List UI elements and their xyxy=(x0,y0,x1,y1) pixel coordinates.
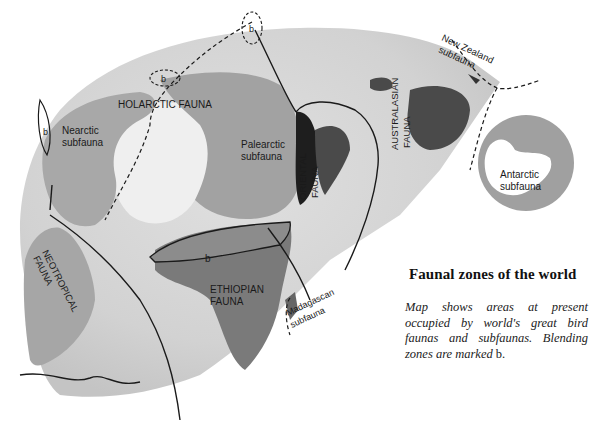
label-holarctic: HOLARCTIC FAUNA xyxy=(118,99,212,110)
australia-land xyxy=(407,86,470,150)
label-antarctic-2: subfauna xyxy=(500,181,542,192)
label-ethiopian-1: ETHIOPIAN xyxy=(210,284,264,295)
faunal-zones-map: HOLARCTIC FAUNA Nearctic subfauna Palear… xyxy=(0,0,612,428)
blend-marker-bering-north: b xyxy=(249,24,254,34)
label-australasian-2: FAUNA xyxy=(401,116,412,148)
label-oriental-2: FAUNA xyxy=(309,166,320,198)
blend-marker-bering: b xyxy=(161,74,166,84)
label-palearctic-2: subfauna xyxy=(241,151,283,162)
label-australasian-1: AUSTRALASIAN xyxy=(389,78,400,150)
map-caption: Map shows areas at present occupied by w… xyxy=(405,300,588,362)
blend-marker-nearctic: b xyxy=(43,127,48,137)
label-antarctic-1: Antarctic xyxy=(500,169,539,180)
label-ethiopian-2: FAUNA xyxy=(210,296,244,307)
label-palearctic-1: Palearctic xyxy=(241,139,285,150)
label-oriental-1: ORIENTAL xyxy=(297,153,308,200)
caption-blend-marker: b. xyxy=(496,347,505,361)
label-nearctic-2: subfauna xyxy=(62,137,104,148)
label-nearctic-1: Nearctic xyxy=(62,125,99,136)
blend-marker-sahara: b xyxy=(205,253,211,264)
map-title: Faunal zones of the world xyxy=(409,266,609,283)
